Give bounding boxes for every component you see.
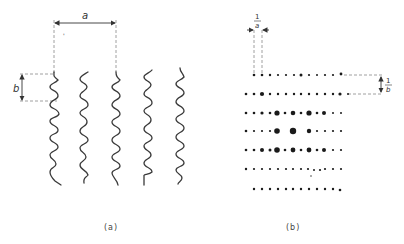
chain-5 xyxy=(176,68,184,184)
dimension-a: a xyxy=(54,10,116,73)
label-inv-b-num: 1 xyxy=(386,77,390,85)
dimension-inverse-b: 1 b xyxy=(344,75,392,94)
panel-b: 1 a 1 b xyxy=(245,13,392,232)
caption-a: (a) xyxy=(104,223,118,232)
spot-row-2 xyxy=(245,92,349,96)
label-a: a xyxy=(82,10,88,21)
spot-row-6 xyxy=(245,168,342,177)
helical-chains xyxy=(50,68,184,185)
diffraction-spots xyxy=(245,73,349,192)
figure: a b ' (a) 1 a xyxy=(0,0,404,244)
dimension-inverse-a: 1 a xyxy=(247,13,269,74)
caption-b: (b) xyxy=(286,223,300,232)
chain-1 xyxy=(50,72,61,185)
spot-row-4 xyxy=(245,128,342,134)
spot-row-3 xyxy=(245,110,342,115)
stray-mark: ' xyxy=(63,32,65,39)
panel-a: a b ' (a) xyxy=(13,10,184,232)
label-inv-b-den: b xyxy=(386,86,391,94)
chain-3 xyxy=(112,72,120,185)
spot-row-1 xyxy=(253,73,343,77)
diagram-canvas: a b ' (a) 1 a xyxy=(0,0,404,244)
label-inv-a-num: 1 xyxy=(255,13,259,21)
chain-4 xyxy=(144,70,152,185)
label-inv-a-den: a xyxy=(255,22,259,30)
label-b: b xyxy=(13,83,19,94)
spot-row-7 xyxy=(253,188,342,192)
chain-2 xyxy=(80,72,88,183)
spot-row-5 xyxy=(245,147,342,153)
